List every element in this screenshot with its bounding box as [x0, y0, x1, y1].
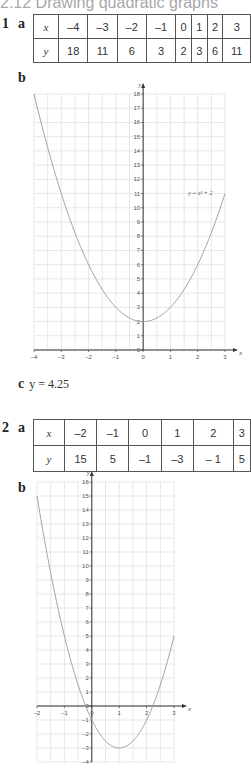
svg-text:–4: –4 [82, 759, 89, 765]
y-cell: 5 [233, 446, 250, 472]
svg-text:11: 11 [134, 191, 141, 197]
y-cell: –1 [129, 446, 161, 472]
x-cell: 1 [161, 420, 193, 446]
q2-graph: yx–4–3–2–1012345678910111213141516–2–101… [34, 469, 192, 765]
svg-text:13: 13 [82, 521, 89, 527]
x-header: x [34, 420, 65, 446]
svg-text:x: x [187, 705, 192, 713]
svg-text:–3: –3 [82, 745, 89, 751]
svg-text:y = x² + 2: y = x² + 2 [187, 190, 212, 196]
x-cell: 3 [233, 420, 250, 446]
svg-text:12: 12 [82, 535, 89, 541]
answer-c-text: y = 4.25 [29, 377, 69, 391]
svg-text:13: 13 [133, 162, 140, 168]
x-cell: –1 [97, 420, 129, 446]
svg-text:10: 10 [82, 563, 89, 569]
svg-text:16: 16 [82, 479, 89, 485]
svg-text:2: 2 [145, 710, 149, 716]
svg-text:1: 1 [169, 354, 173, 360]
svg-text:–2: –2 [82, 731, 89, 737]
svg-text:–4: –4 [31, 354, 38, 360]
svg-text:3: 3 [172, 710, 176, 716]
svg-text:x: x [238, 349, 243, 357]
svg-text:16: 16 [133, 119, 140, 125]
svg-text:17: 17 [133, 105, 140, 111]
q2-value-table: x –2 –1 0 1 2 3 y 15 5 –1 –3 – 1 5 [33, 419, 251, 472]
y-cell: 5 [97, 446, 129, 472]
q1-graph: yx0123456789101112131415161718–4–3–2–101… [31, 81, 243, 360]
svg-text:–1: –1 [61, 710, 68, 716]
y-cell: 15 [65, 446, 97, 472]
x-cell: –2 [65, 420, 97, 446]
svg-text:–2: –2 [34, 710, 41, 716]
y-cell: –3 [161, 446, 193, 472]
question-2-part-b: b [18, 480, 26, 496]
x-cell: 2 [193, 420, 233, 446]
svg-text:0: 0 [141, 354, 145, 360]
svg-text:3: 3 [223, 354, 227, 360]
svg-text:12: 12 [133, 176, 140, 182]
question-2-part-a: a [18, 420, 25, 436]
svg-text:14: 14 [82, 507, 89, 513]
svg-text:15: 15 [82, 493, 89, 499]
svg-text:18: 18 [133, 91, 140, 97]
y-row: y 15 5 –1 –3 – 1 5 [34, 446, 251, 472]
svg-text:15: 15 [133, 134, 140, 140]
x-row: x –2 –1 0 1 2 3 [34, 420, 251, 446]
question-1-part-c-answer: cy = 4.25 [18, 376, 69, 392]
y-cell: – 1 [193, 446, 233, 472]
svg-text:11: 11 [83, 549, 90, 555]
svg-text:–3: –3 [58, 354, 65, 360]
svg-text:–1: –1 [82, 717, 89, 723]
svg-text:2: 2 [196, 354, 200, 360]
svg-text:14: 14 [133, 148, 140, 154]
question-1-part-c: c [18, 376, 24, 391]
svg-text:10: 10 [133, 205, 140, 211]
y-header: y [34, 446, 65, 472]
x-cell: 0 [129, 420, 161, 446]
svg-text:–2: –2 [85, 354, 92, 360]
question-2-number: 2 [2, 420, 9, 436]
svg-text:–1: –1 [113, 354, 120, 360]
svg-text:1: 1 [118, 710, 122, 716]
svg-text:0: 0 [90, 710, 94, 716]
